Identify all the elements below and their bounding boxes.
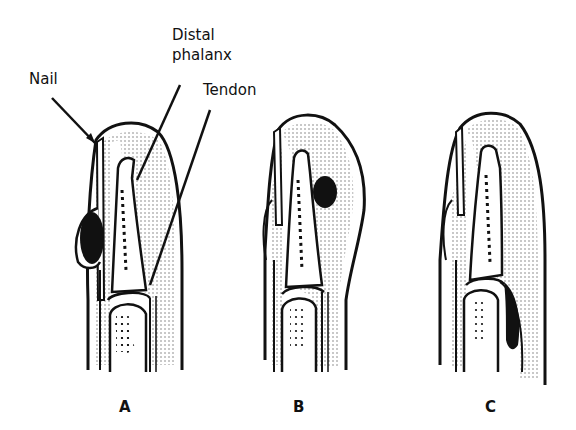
fingertip-diagram [0, 0, 576, 430]
panel-a-drawing [76, 123, 182, 372]
panel-a-label: A [119, 398, 131, 416]
panel-c-drawing [440, 113, 545, 385]
figure-canvas: Nail Distal phalanx Tendon A B C [0, 0, 576, 430]
panel-b-drawing [264, 115, 365, 372]
tendon-label: Tendon [203, 82, 257, 99]
nail-label: Nail [29, 71, 58, 88]
distal-phalanx-label-line1: Distal [172, 27, 215, 44]
panel-b-label: B [293, 398, 304, 416]
distal-phalanx-label-line2: phalanx [172, 47, 232, 64]
panel-c-label: C [485, 398, 496, 416]
